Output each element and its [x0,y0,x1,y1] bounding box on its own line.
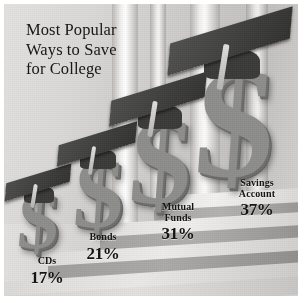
infographic-poster: $ $ $ $ [0,0,305,303]
photo-scene: $ $ $ $ [4,4,298,296]
photo-grain-overlay [4,4,298,296]
